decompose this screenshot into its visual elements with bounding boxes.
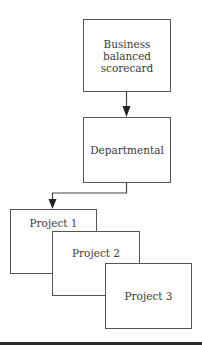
node-label-line: scorecard: [84, 62, 170, 74]
node-label-line: Business balanced: [84, 38, 170, 62]
node-departmental: Departmental: [83, 117, 171, 183]
node-label: Project 3: [125, 290, 173, 302]
arrow-bsc-to-departmental: [123, 92, 131, 117]
node-label: Departmental: [90, 144, 164, 156]
node-business-balanced-scorecard: Business balanced scorecard: [83, 19, 171, 92]
node-label: Project 2: [53, 247, 139, 259]
arrow-departmental-to-project-1: [49, 183, 127, 209]
node-label: Project 1: [30, 217, 78, 229]
node-project-3: Project 3: [105, 263, 192, 329]
